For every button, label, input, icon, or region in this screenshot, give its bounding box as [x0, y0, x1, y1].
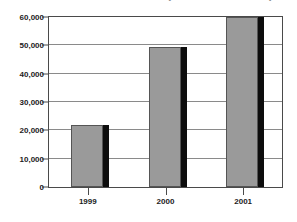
x-axis-label-1999: 1999: [58, 197, 118, 206]
y-axis-tick-label: 40,000: [0, 69, 44, 78]
y-axis-tick-label: 0: [0, 183, 44, 192]
bar-group[interactable]: [226, 17, 264, 187]
bar-2000[interactable]: [149, 47, 181, 187]
bar-shadow: [181, 47, 187, 187]
y-axis-tick-label: 20,000: [0, 126, 44, 135]
x-axis-label-2000: 2000: [136, 197, 196, 206]
x-axis-tick-mark: [243, 188, 244, 195]
y-axis-tick-label: 60,000: [0, 13, 44, 22]
bar-shadow: [103, 125, 109, 187]
x-axis-tick-mark: [88, 188, 89, 195]
bar-chart-figure: (millions of dollars) 010,00020,00030,00…: [0, 0, 297, 222]
bar-group[interactable]: [149, 47, 187, 187]
x-axis-tick-mark: [166, 188, 167, 195]
plot-area: [48, 16, 283, 188]
y-axis-tick-label: 10,000: [0, 154, 44, 163]
bar-2001[interactable]: [226, 17, 258, 187]
chart-title: (millions of dollars): [150, 0, 290, 3]
x-axis-label-2001: 2001: [213, 197, 273, 206]
bar-shadow: [258, 17, 264, 187]
y-axis-tick-label: 30,000: [0, 98, 44, 107]
bar-1999[interactable]: [71, 125, 103, 187]
bar-group[interactable]: [71, 125, 109, 187]
y-axis-tick-label: 50,000: [0, 41, 44, 50]
